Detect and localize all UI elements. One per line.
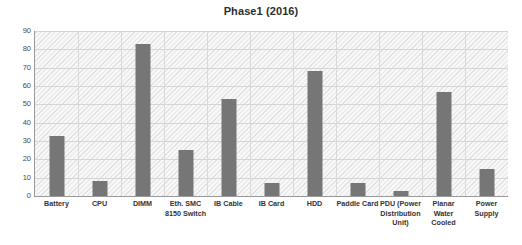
- bar-slot: [379, 31, 422, 196]
- x-tick-label: Paddle Card: [336, 199, 379, 209]
- y-tick-label: 90: [5, 27, 31, 35]
- x-tick-label: DIMM: [121, 199, 164, 209]
- x-tick-label-line: Planar Water: [422, 199, 465, 218]
- plot-area: [35, 31, 508, 196]
- x-tick-label: IB Cable: [207, 199, 250, 209]
- x-tick-label-line: Distribution: [379, 209, 422, 219]
- x-axis-line: [34, 196, 508, 197]
- bar[interactable]: [178, 150, 193, 196]
- bar[interactable]: [307, 71, 322, 196]
- x-tick-label: CPU: [78, 199, 121, 209]
- y-tick-label: 0: [5, 192, 31, 200]
- bar-slot: [207, 31, 250, 196]
- bar-slot: [121, 31, 164, 196]
- x-tick-label-line: IB Cable: [207, 199, 250, 209]
- bar-slot: [250, 31, 293, 196]
- x-tick-label: Battery: [35, 199, 78, 209]
- x-tick-label-line: HDD: [293, 199, 336, 209]
- y-tick-label: 80: [5, 45, 31, 53]
- x-tick-label-line: CPU: [78, 199, 121, 209]
- x-tick-label-line: Cooled: [422, 218, 465, 228]
- bar-slot: [293, 31, 336, 196]
- bar-slot: [164, 31, 207, 196]
- y-tick-label: 60: [5, 82, 31, 90]
- bar[interactable]: [479, 169, 494, 197]
- x-tick-label-line: Paddle Card: [336, 199, 379, 209]
- bar[interactable]: [135, 44, 150, 196]
- bar[interactable]: [436, 92, 451, 197]
- y-tick-label: 50: [5, 100, 31, 108]
- x-tick-label: PDU (PowerDistributionUnit): [379, 199, 422, 228]
- x-tick-label-line: Battery: [35, 199, 78, 209]
- bar[interactable]: [264, 183, 279, 196]
- x-tick-label: HDD: [293, 199, 336, 209]
- x-tick-label-line: PDU (Power: [379, 199, 422, 209]
- x-tick-label: Power Supply: [465, 199, 508, 218]
- bar[interactable]: [393, 191, 408, 197]
- y-tick-label: 40: [5, 119, 31, 127]
- bar-slot: [35, 31, 78, 196]
- bar-slot: [336, 31, 379, 196]
- y-tick-label: 10: [5, 174, 31, 182]
- bar[interactable]: [92, 181, 107, 196]
- x-tick-label-line: Power Supply: [465, 199, 508, 218]
- bar-slot: [422, 31, 465, 196]
- chart-title: Phase1 (2016): [0, 5, 522, 17]
- x-axis-tick-labels: BatteryCPUDIMMEth. SMC8150 SwitchIB Cabl…: [35, 199, 508, 245]
- bar[interactable]: [49, 136, 64, 197]
- x-tick-label: IB Card: [250, 199, 293, 209]
- bar-slot: [78, 31, 121, 196]
- x-tick-label-line: IB Card: [250, 199, 293, 209]
- bar[interactable]: [350, 183, 365, 196]
- x-tick-label-line: Unit): [379, 218, 422, 228]
- bar-slot: [465, 31, 508, 196]
- bar[interactable]: [221, 99, 236, 196]
- bar-chart: Phase1 (2016) 9080706050403020100 Batter…: [0, 0, 522, 245]
- x-tick-label: Eth. SMC8150 Switch: [164, 199, 207, 218]
- x-tick-label-line: Eth. SMC: [164, 199, 207, 209]
- x-tick-label-line: 8150 Switch: [164, 209, 207, 219]
- y-tick-label: 20: [5, 155, 31, 163]
- y-axis-tick-labels: 9080706050403020100: [0, 31, 31, 197]
- x-tick-label: Planar WaterCooled: [422, 199, 465, 228]
- y-tick-label: 70: [5, 64, 31, 72]
- x-tick-label-line: DIMM: [121, 199, 164, 209]
- y-tick-label: 30: [5, 137, 31, 145]
